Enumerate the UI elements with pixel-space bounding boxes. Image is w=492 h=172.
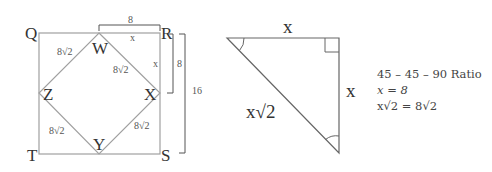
dimension-right-16: 16	[192, 86, 202, 96]
label-wr-x: x	[130, 33, 135, 43]
label-rx-x: x	[153, 59, 158, 69]
right-triangle	[227, 38, 339, 153]
vertex-r: R	[161, 25, 172, 42]
angle-arc-top-left	[240, 38, 245, 51]
triangle-top-side-label: x	[283, 17, 293, 36]
label-wx-length: 8√2	[113, 65, 129, 75]
vertex-w: W	[92, 40, 108, 57]
bracket-right-large	[179, 34, 185, 153]
ratio-notes: 45 – 45 – 90 Ratio x = 8 x√2 = 8√2	[377, 66, 482, 114]
angle-arc-bottom	[326, 136, 340, 140]
triangle-hypotenuse-label: x√2	[246, 102, 275, 121]
vertex-z: Z	[43, 86, 53, 103]
ratio-title: 45 – 45 – 90 Ratio	[377, 66, 482, 82]
vertex-y: Y	[93, 136, 105, 153]
dimension-right-8: 8	[177, 59, 182, 69]
dimension-top-8: 8	[128, 15, 133, 25]
triangle-right-side-label: x	[346, 81, 356, 100]
bracket-top	[99, 25, 160, 31]
vertex-x: X	[144, 86, 156, 103]
ratio-line-2: x√2 = 8√2	[377, 98, 482, 114]
label-zw-length: 8√2	[57, 47, 73, 57]
label-zy-length: 8√2	[49, 126, 65, 136]
vertex-q: Q	[25, 25, 37, 42]
ratio-line-1: x = 8	[377, 82, 482, 98]
label-yx-length: 8√2	[134, 121, 150, 131]
vertex-s: S	[161, 147, 170, 164]
right-angle-mark	[325, 38, 339, 52]
vertex-t: T	[27, 147, 37, 164]
